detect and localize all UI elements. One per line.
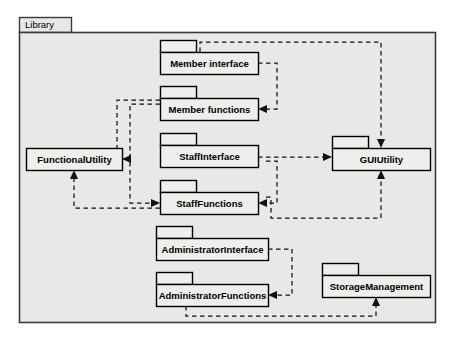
staff-functions-tab	[161, 181, 197, 193]
storage-management-tab	[323, 264, 359, 276]
administrator-functions-tab	[157, 273, 193, 285]
functional-utility-label: FunctionalUtility	[37, 154, 112, 165]
storage-management-label: StorageManagement	[330, 281, 424, 292]
staff-interface-tab	[161, 134, 197, 146]
library-label: Library	[25, 19, 54, 30]
administrator-functions-label: AdministratorFunctions	[159, 290, 267, 301]
uml-package-diagram: Library	[0, 0, 458, 352]
member-functions-label: Member functions	[169, 104, 251, 115]
administrator-interface-tab	[157, 227, 193, 239]
gui-utility-label: GUIUtility	[360, 154, 404, 165]
staff-functions-label: StaffFunctions	[176, 198, 243, 209]
package-functional-utility[interactable]: FunctionalUtility	[27, 149, 123, 171]
gui-utility-tab	[333, 137, 369, 149]
staff-interface-label: StaffInterface	[179, 151, 240, 162]
member-interface-label: Member interface	[170, 58, 249, 69]
member-functions-tab	[161, 87, 197, 99]
administrator-interface-label: AdministratorInterface	[162, 244, 264, 255]
member-interface-tab	[161, 41, 197, 53]
diagram-canvas: Library	[0, 0, 458, 352]
